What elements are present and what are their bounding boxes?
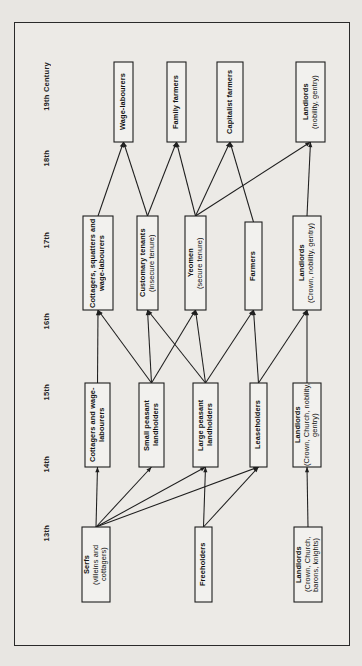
edge [203, 467, 207, 527]
node-box-landlords_19 [296, 62, 325, 142]
node-box-yeomen [185, 216, 206, 310]
century-label-c14: 14th [42, 456, 51, 472]
node-box-wage_labourers [114, 62, 133, 142]
century-label-c19: 19th Century [42, 62, 51, 111]
edge [146, 310, 152, 383]
edge [176, 142, 196, 216]
diagram-canvas [0, 0, 362, 666]
edge [123, 142, 147, 216]
diagram-page: Wage-labourersFamily farmersCapitalist f… [0, 0, 362, 666]
node-box-freeholders [195, 527, 212, 602]
node-box-cottagers_wage [85, 383, 110, 467]
edge [152, 310, 196, 383]
node-box-landlords_13 [294, 527, 322, 602]
edge [96, 467, 206, 527]
edge [95, 467, 99, 527]
century-label-c16: 16th [42, 313, 51, 329]
edge [252, 310, 259, 383]
edge-layer [95, 142, 312, 527]
node-box-landlords_17 [293, 216, 321, 310]
edge [229, 142, 253, 222]
century-label-c18: 18th [42, 150, 51, 166]
node-box-customary_tenants [137, 216, 158, 310]
edge [96, 467, 259, 527]
edge [148, 142, 177, 216]
node-box-family_farmers [167, 62, 186, 142]
node-box-capitalist_farmers [217, 62, 243, 142]
edge [259, 310, 308, 383]
edge [307, 142, 312, 216]
node-box-small_peasant [139, 383, 164, 467]
century-label-c13: 13th [42, 525, 51, 541]
century-label-c17: 17th [42, 232, 51, 248]
node-box-cottagers_squatters [83, 216, 113, 310]
node-box-serfs [82, 527, 110, 602]
edge [98, 142, 124, 216]
node-box-leaseholders [250, 383, 267, 467]
edge [305, 310, 309, 383]
node-box-farmers_17 [245, 222, 262, 310]
edge [96, 467, 152, 527]
edge [98, 310, 152, 383]
edge [96, 310, 100, 383]
edge [204, 467, 259, 527]
node-box-landlords_15 [293, 383, 321, 467]
edge [206, 310, 254, 383]
century-label-c15: 15th [42, 384, 51, 400]
edge [305, 467, 309, 527]
edge [194, 310, 205, 383]
node-box-large_peasant [193, 383, 218, 467]
